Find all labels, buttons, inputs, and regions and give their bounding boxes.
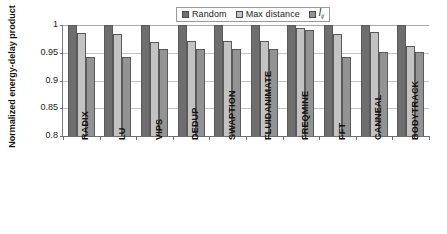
x-category-label-text: CANNEAL <box>374 95 383 140</box>
bar <box>113 34 122 136</box>
y-tick-label: 0.85 <box>40 103 58 112</box>
x-category-label-text: FLUIDANIMATE <box>264 71 273 140</box>
legend-item-lij: lij <box>309 8 324 21</box>
x-category-label-text: DEDUP <box>191 107 200 140</box>
legend-item-max-distance: Max distance <box>236 10 300 19</box>
bar <box>104 25 113 136</box>
x-category-label-text: VIPS <box>155 119 164 140</box>
chart-legend: Random Max distance lij <box>176 7 330 22</box>
bar <box>251 25 260 136</box>
x-category-label-text: BODYTRACK <box>411 81 420 140</box>
bar <box>141 25 150 136</box>
y-tick-label: 0.8 <box>45 131 58 140</box>
bar <box>324 25 333 136</box>
y-tick-mark <box>60 53 63 54</box>
legend-label-lij: lij <box>319 8 324 21</box>
bar <box>333 34 342 136</box>
legend-label-random: Random <box>192 10 227 19</box>
x-category-label-text: SWAPTION <box>228 90 237 140</box>
legend-swatch-lij <box>309 11 316 18</box>
y-tick-label: 0.95 <box>40 48 58 57</box>
x-category-label-text: FREQMINE <box>301 91 310 140</box>
bar <box>397 25 406 136</box>
bar <box>361 25 370 136</box>
y-axis-title: Normalized energy-delay product <box>0 6 24 146</box>
x-category-label-text: FFT <box>338 123 347 140</box>
x-category-label-text: LU <box>118 128 127 140</box>
legend-swatch-max-distance <box>236 11 243 18</box>
y-tick-mark <box>60 108 63 109</box>
legend-swatch-random <box>182 11 189 18</box>
bar <box>122 57 131 136</box>
y-tick-label: 0.9 <box>45 76 58 85</box>
y-axis-title-text: Normalized energy-delay product <box>7 5 18 148</box>
bar <box>287 25 296 136</box>
bar <box>214 25 223 136</box>
legend-item-random: Random <box>182 10 227 19</box>
x-category-label-text: RADIX <box>81 111 90 140</box>
y-tick-label: 1 <box>53 20 58 29</box>
x-category-label: BODYTRACK <box>405 140 447 152</box>
legend-label-lij-subscript: ij <box>321 13 324 19</box>
bar-group <box>104 25 132 136</box>
bar <box>178 25 187 136</box>
y-tick-mark <box>60 81 63 82</box>
x-tick-mark <box>63 136 64 140</box>
bar <box>68 25 77 136</box>
y-tick-mark <box>60 25 63 26</box>
chart-container: Random Max distance lij Normalized energ… <box>0 0 447 234</box>
legend-label-max-distance: Max distance <box>246 10 300 19</box>
bar-group <box>324 25 352 136</box>
